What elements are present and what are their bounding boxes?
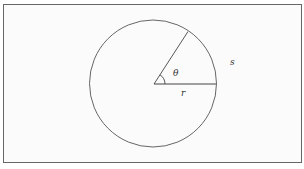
circle-diagram: θ r s bbox=[0, 0, 304, 169]
arc-length-label: s bbox=[230, 57, 235, 67]
frame-border bbox=[4, 5, 302, 163]
angle-label: θ bbox=[173, 68, 179, 78]
radius-label: r bbox=[181, 88, 186, 98]
